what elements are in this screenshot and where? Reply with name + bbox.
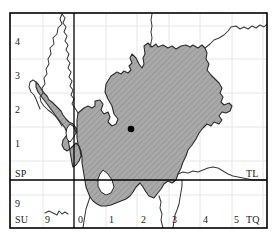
y-axis-tick-2: 2 — [15, 105, 20, 115]
y-axis-tick-1: 1 — [15, 139, 20, 149]
x-axis-tick-3: 3 — [172, 215, 177, 225]
x-axis-tick-1: 1 — [109, 215, 114, 225]
grid-square-label-sp: SP — [15, 169, 27, 179]
map-canvas — [0, 0, 275, 240]
grid-square-label-tq: TQ — [246, 215, 260, 225]
y-axis-tick-3: 3 — [15, 71, 20, 81]
x-axis-tick-5: 5 — [234, 215, 239, 225]
y-axis-tick-4: 4 — [15, 37, 20, 47]
x-axis-tick-0: 0 — [78, 215, 83, 225]
grid-square-label-tl: TL — [246, 169, 259, 179]
grid-square-label-su: SU — [15, 215, 28, 225]
x-axis-tick-9-left: 9 — [45, 215, 50, 225]
x-axis-tick-4: 4 — [203, 215, 208, 225]
y-axis-tick-9: 9 — [15, 199, 20, 209]
ordnance-survey-map-figure: 4 3 2 1 9 SP SU TL TQ 9 0 1 2 3 4 5 — [0, 0, 275, 240]
site-location-marker — [128, 126, 135, 133]
x-axis-tick-2: 2 — [141, 215, 146, 225]
